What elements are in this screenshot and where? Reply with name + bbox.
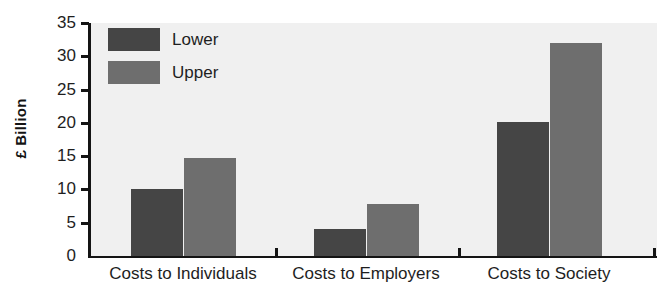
y-axis-tick-mark [81,55,89,58]
bar-lower-2 [497,122,549,256]
y-axis-tick-label: 20 [57,113,76,133]
x-axis-category-labels: Costs to IndividualsCosts to EmployersCo… [0,262,661,295]
bar-upper-0 [184,158,236,256]
bar-lower-0 [131,189,183,256]
y-axis-tick-mark [81,89,89,92]
legend-swatch-lower [108,28,160,51]
bar-upper-2 [550,43,602,256]
y-axis-tick-label: 5 [67,213,76,233]
y-axis-tick-label: 15 [57,146,76,166]
y-axis-tick-label: 10 [57,179,76,199]
legend-label: Lower [172,30,218,50]
legend-entry-upper: Upper [108,61,218,84]
chart-legend: LowerUpper [108,28,218,84]
legend-label: Upper [172,63,218,83]
y-axis-title: £ Billion [0,0,40,256]
bar-chart: £ Billion 05101520253035 LowerUpper Cost… [0,0,661,295]
y-axis-tick-mark [81,22,89,25]
bar-lower-1 [314,229,366,256]
y-axis-tick-mark [81,222,89,225]
legend-entry-lower: Lower [108,28,218,51]
x-axis-tick-mark [458,248,461,256]
x-axis-category-label: Costs to Society [488,264,611,284]
y-axis-tick-mark [81,155,89,158]
y-axis-title-text: £ Billion [12,98,29,158]
x-axis-category-label: Costs to Employers [292,264,439,284]
x-axis-category-label: Costs to Individuals [109,264,256,284]
x-axis-tick-mark [653,248,656,256]
x-axis-tick-mark [275,248,278,256]
y-axis-tick-mark [81,122,89,125]
legend-swatch-upper [108,61,160,84]
y-axis-tick-label: 30 [57,46,76,66]
y-axis-tick-label: 25 [57,80,76,100]
y-axis-tick-label: 35 [57,13,76,33]
y-axis-tick-mark [81,188,89,191]
y-axis-tick-labels: 05101520253035 [38,0,80,295]
bar-upper-1 [367,204,419,256]
